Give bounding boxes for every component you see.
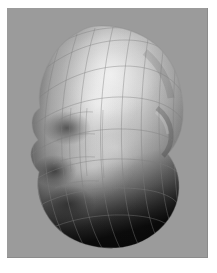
mouth-shadow xyxy=(43,186,95,222)
render-viewport xyxy=(7,8,208,258)
head-mesh-render xyxy=(7,8,208,258)
midface-highlight xyxy=(85,124,145,172)
head-surface xyxy=(7,8,208,258)
figure-page xyxy=(0,0,217,273)
